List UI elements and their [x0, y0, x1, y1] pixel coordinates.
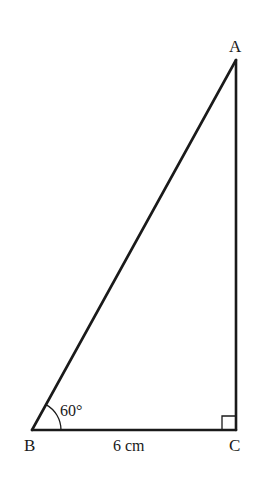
angle-arc-B [46, 405, 61, 430]
right-angle-marker [222, 416, 236, 430]
vertex-label-B: B [24, 436, 35, 455]
side-AB [32, 60, 236, 430]
vertex-label-C: C [229, 436, 240, 455]
vertex-label-A: A [229, 37, 242, 56]
angle-label-B: 60° [60, 402, 82, 419]
side-length-label: 6 cm [113, 437, 145, 454]
triangle-diagram: A B C 6 cm 60° [0, 0, 264, 490]
